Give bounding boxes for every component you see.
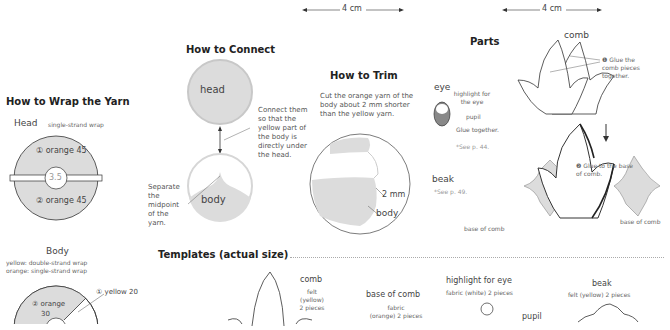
eye-highlight-label: highlight forthe eye bbox=[452, 90, 492, 106]
parts-title: Parts bbox=[470, 36, 499, 47]
template-base-of-comb-label: base of comb bbox=[366, 290, 420, 299]
comb-label: comb bbox=[564, 30, 589, 40]
trim-title: How to Trim bbox=[330, 70, 398, 81]
head-top-segment: ① orange 45 bbox=[36, 146, 87, 155]
highlight-template bbox=[480, 302, 494, 316]
eye-glue-note: Glue together. bbox=[456, 126, 499, 134]
template-beak-label: beak bbox=[592, 279, 612, 288]
beak-label: beak bbox=[432, 174, 454, 184]
body-note-orange: orange: single-strand wrap bbox=[6, 267, 87, 275]
templates-divider bbox=[290, 257, 664, 258]
wrap-title: How to Wrap the Yarn bbox=[6, 96, 130, 107]
template-highlight-material: fabric (white) 2 pieces bbox=[446, 289, 513, 297]
template-beak-material: felt (yellow) 2 pieces bbox=[568, 291, 630, 299]
measure-left: 4 cm bbox=[342, 4, 362, 13]
head-label: Head bbox=[14, 118, 38, 128]
measure-right: 4 cm bbox=[542, 4, 562, 13]
eye-label: eye bbox=[434, 82, 450, 92]
trim-measure: 2 mm bbox=[382, 190, 405, 199]
head-note: single-strand wrap bbox=[48, 121, 104, 129]
template-pupil-label: pupil bbox=[522, 312, 542, 321]
dimension-arrow-left bbox=[0, 0, 670, 20]
trim-diagram bbox=[306, 130, 416, 240]
head-center-value: 3.5 bbox=[49, 173, 62, 182]
eye-diagram bbox=[432, 100, 452, 130]
templates-title: Templates (actual size) bbox=[158, 249, 288, 260]
trim-note: Cut the orange yarn of thebody about 2 m… bbox=[320, 92, 430, 119]
body-segment-yellow: ① yellow 20 bbox=[96, 288, 138, 296]
template-base-of-comb-material: fabric(orange) 2 pieces bbox=[360, 304, 432, 320]
connect-head-label: head bbox=[200, 84, 225, 95]
trim-body-label: body bbox=[376, 208, 398, 218]
connect-body-label: body bbox=[201, 194, 226, 205]
body-segment-orange-value: 30 bbox=[41, 310, 50, 318]
beak-template bbox=[574, 302, 644, 330]
connect-title: How to Connect bbox=[186, 44, 275, 55]
comb-step1: ❶ Glue thecomb piecestogether. bbox=[602, 56, 668, 80]
head-bottom-segment: ② orange 45 bbox=[36, 196, 87, 205]
template-comb-material: felt(yellow)2 pieces bbox=[294, 288, 330, 312]
eye-ref: *See p. 44. bbox=[456, 143, 489, 151]
body-label: Body bbox=[46, 246, 69, 256]
comb-step2: ❷ Glue to the baseof comb. bbox=[576, 162, 666, 178]
template-comb-label: comb bbox=[300, 275, 322, 284]
base-of-comb-left: base of comb bbox=[464, 225, 505, 233]
beak-ref: *See p. 49. bbox=[434, 188, 467, 196]
separate-note: Separatethemidpointof theyarn. bbox=[148, 183, 188, 228]
body-segment-orange: ② orange bbox=[32, 300, 65, 308]
body-note-yellow: yellow: double-strand wrap bbox=[6, 259, 87, 267]
template-highlight-label: highlight for eye bbox=[446, 276, 512, 285]
eye-pupil-label: pupil bbox=[466, 113, 481, 121]
base-of-comb-right: base of comb bbox=[620, 218, 661, 226]
